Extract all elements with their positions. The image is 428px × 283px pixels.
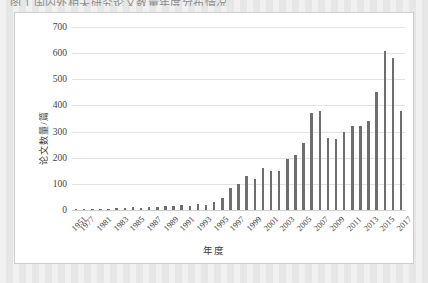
y-axis-ticks: 0100200300400500600700 (33, 27, 67, 210)
bar (327, 138, 330, 210)
bar (197, 204, 200, 210)
bar (310, 113, 313, 210)
gridline (72, 210, 405, 211)
bar-slot (381, 27, 389, 210)
bar-slot (324, 27, 332, 210)
plot-area (72, 27, 405, 210)
bar (254, 179, 257, 210)
y-tick-label: 400 (53, 100, 67, 110)
bar-slot (356, 27, 364, 210)
bar-slot (308, 27, 316, 210)
bar-slot (316, 27, 324, 210)
y-tick-label: 700 (53, 22, 67, 32)
bar-slot (178, 27, 186, 210)
bar-slot (153, 27, 161, 210)
bar-slot (235, 27, 243, 210)
y-tick-label: 500 (53, 74, 67, 84)
bar (319, 111, 322, 210)
bar (359, 126, 362, 210)
bar-slot (373, 27, 381, 210)
bar (335, 139, 338, 210)
bar (213, 202, 216, 210)
bar (400, 111, 403, 210)
bar-slot (397, 27, 405, 210)
bar-slot (251, 27, 259, 210)
bar-slot (300, 27, 308, 210)
bar-slot (291, 27, 299, 210)
bar (172, 206, 175, 210)
y-tick-label: 600 (53, 48, 67, 58)
bar-slot (275, 27, 283, 210)
y-tick-label: 0 (62, 205, 67, 215)
y-tick-label: 200 (53, 153, 67, 163)
y-tick-label: 100 (53, 179, 67, 189)
bar (270, 171, 273, 210)
bar (384, 51, 387, 210)
bar-slot (105, 27, 113, 210)
bar-slot (210, 27, 218, 210)
bar (180, 205, 183, 210)
bar (124, 208, 127, 210)
bar (286, 159, 289, 210)
bar-slot (194, 27, 202, 210)
bar (229, 188, 232, 210)
bar (221, 198, 224, 210)
bar-slot (161, 27, 169, 210)
x-axis-title: 年度 (15, 243, 413, 257)
bar (375, 92, 378, 210)
bar (99, 209, 102, 210)
bar (189, 206, 192, 210)
bar-slot (145, 27, 153, 210)
bar (83, 209, 86, 210)
bar-slot (96, 27, 104, 210)
bar-slot (348, 27, 356, 210)
bar (392, 58, 395, 210)
bar (75, 209, 78, 210)
bar-slot (389, 27, 397, 210)
bar-slot (202, 27, 210, 210)
bar (107, 209, 110, 210)
bar (140, 208, 143, 210)
plot-wrapper: 论文数量/篇 0100200300400500600700 1951197719… (15, 13, 413, 263)
bar-series (72, 27, 405, 210)
bar (367, 121, 370, 210)
bar (132, 207, 135, 210)
bar (278, 171, 281, 210)
bar (156, 207, 159, 210)
bar-slot (121, 27, 129, 210)
chart-panel: 论文数量/篇 0100200300400500600700 1951197719… (14, 12, 414, 264)
bar (115, 208, 118, 210)
bar-slot (365, 27, 373, 210)
bar-slot (226, 27, 234, 210)
bar (294, 155, 297, 210)
bar (205, 205, 208, 210)
bar-slot (129, 27, 137, 210)
bar-slot (137, 27, 145, 210)
bar-slot (340, 27, 348, 210)
bar (262, 168, 265, 210)
bar (91, 209, 94, 210)
x-tick-label: 2017 (394, 214, 413, 233)
bar-slot (72, 27, 80, 210)
figure-caption: 图 1 国内外相关研究论文数量年度分布情况 (10, 0, 310, 6)
bar (302, 143, 305, 210)
y-tick-label: 300 (53, 127, 67, 137)
bar-slot (332, 27, 340, 210)
bar-slot (267, 27, 275, 210)
bar-slot (186, 27, 194, 210)
bar (237, 184, 240, 210)
bar (245, 176, 248, 210)
bar-slot (170, 27, 178, 210)
bar-slot (113, 27, 121, 210)
bar-slot (243, 27, 251, 210)
bar (343, 132, 346, 210)
bar (351, 126, 354, 210)
bar (148, 207, 151, 210)
bar (164, 206, 167, 210)
bar-slot (259, 27, 267, 210)
bar-slot (218, 27, 226, 210)
bar-slot (80, 27, 88, 210)
bar-slot (283, 27, 291, 210)
bar-slot (88, 27, 96, 210)
